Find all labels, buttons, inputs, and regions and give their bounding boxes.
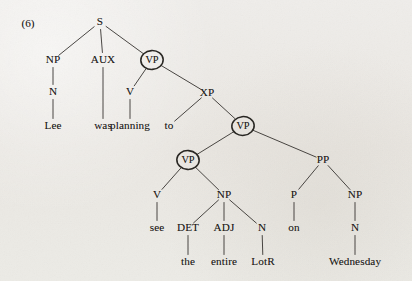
tree-node-xp: XP [200,87,215,98]
tree-edge [194,200,219,223]
tree-edge [262,236,263,255]
tree-edge [230,200,257,223]
tree-node-vp-circled: VP [146,55,159,65]
tree-node-vp-circled: VP [182,155,195,165]
tree-leaf-lotr: LotR [251,256,274,267]
tree-node-pp: PP [317,154,330,165]
tree-node-v: V [153,189,161,200]
tree-leaf-on: on [288,222,299,233]
tree-node-p: P [291,189,297,200]
tree-edge [253,130,316,157]
tree-edge [134,69,146,86]
figure-canvas: (6) SNPAUXVPNVXPVPVPPPVNPPNPDETADJNNLeew… [0,0,412,281]
tree-node-np: NP [217,189,232,200]
tree-edge [197,132,234,155]
tree-leaf-lee: Lee [44,120,61,131]
tree-leaf-to: to [165,120,174,131]
tree-node-vp-circled: VP [237,121,250,131]
tree-node-aux: AUX [91,54,116,65]
tree-leaf-wednesday: Wednesday [329,256,381,267]
tree-edge [101,29,103,52]
tree-node-det: DET [177,222,199,233]
tree-leaf-see: see [150,222,165,233]
tree-node-adj: ADJ [214,222,235,233]
tree-edge [328,166,350,190]
tree-edge [175,98,202,121]
tree-node-n: N [351,222,359,233]
tree-node-np: NP [46,54,61,65]
tree-leaf-entire: entire [211,256,237,267]
tree-edge [59,27,94,56]
tree-node-n: N [49,86,57,97]
tree-node-n: N [258,222,266,233]
tree-edge [213,98,236,119]
tree-leaf-planning: planning [110,120,150,131]
tree-node-s: S [97,16,103,27]
tree-circle-mark-layer [140,50,255,170]
tree-edge [196,167,219,189]
tree-edge [161,66,200,90]
tree-edge [106,26,143,53]
example-number: (6) [21,17,34,29]
tree-node-v: V [126,86,134,97]
syntax-tree-graphic [0,0,412,281]
tree-edge [162,168,181,189]
tree-node-np: NP [348,189,363,200]
tree-edge [299,166,318,189]
tree-leaf-the: the [181,256,195,267]
